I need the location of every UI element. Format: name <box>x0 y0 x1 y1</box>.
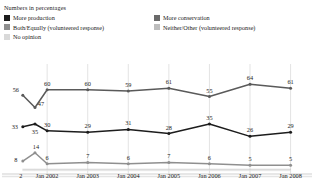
legend-row: Both/Equally (volunteered response) Neit… <box>4 24 310 31</box>
data-point <box>21 125 24 128</box>
chart-screenshot: Numbers in percentages More production M… <box>0 0 314 188</box>
data-value-label: 59 <box>125 81 131 88</box>
data-value-label: 33 <box>12 122 18 129</box>
data-value-label: 6 <box>127 153 130 160</box>
legend-swatch-no-opinion <box>4 34 10 40</box>
data-value-label: 30 <box>44 120 50 127</box>
data-value-label: 6 <box>208 153 211 160</box>
data-point <box>127 162 130 165</box>
data-point <box>46 162 49 165</box>
legend-item-more-conservation: More conservation <box>154 14 310 21</box>
data-point <box>33 151 36 154</box>
data-value-label: 28 <box>166 123 172 130</box>
data-value-label: 60 <box>44 79 50 86</box>
data-point <box>167 132 170 135</box>
data-value-label: 29 <box>287 122 293 129</box>
data-value-label: 61 <box>287 78 293 85</box>
data-point <box>249 135 252 138</box>
data-point <box>249 83 252 86</box>
data-point <box>86 161 89 164</box>
data-point <box>127 128 130 131</box>
legend-label-no-opinion: No opinion <box>13 33 41 40</box>
legend-swatch-more-conservation <box>154 15 160 21</box>
legend-item-both-equally: Both/Equally (volunteered response) <box>4 24 154 31</box>
x-tick-label: Jan 2005 <box>158 172 181 179</box>
legend-row: More production More conservation <box>4 14 310 21</box>
x-tick-label: Jan 2007 <box>239 172 262 179</box>
data-value-label: 5 <box>289 155 292 162</box>
data-point <box>167 87 170 90</box>
data-point <box>86 88 89 91</box>
data-value-label: 26 <box>247 126 253 133</box>
x-tick-label: Jan 2006 <box>198 172 221 179</box>
data-value-label: 5 <box>248 155 251 162</box>
data-value-label: 35 <box>206 114 212 121</box>
legend-label-neither-other: Neither/Other (volunteered response) <box>163 24 255 31</box>
x-tick-label: Jan 2008 <box>279 172 302 179</box>
data-point <box>167 161 170 164</box>
x-tick-label: Jan 2003 <box>76 172 99 179</box>
legend-item-no-opinion: No opinion <box>4 33 154 40</box>
x-axis-tick-labels: Jan 2002Jan 2003Jan 2004Jan 2005Jan 2006… <box>0 172 314 186</box>
legend-swatch-more-production <box>4 15 10 21</box>
data-point <box>249 164 252 167</box>
data-point <box>208 162 211 165</box>
data-point <box>21 160 24 163</box>
data-point <box>33 123 36 126</box>
data-point <box>289 131 292 134</box>
chart-legend: More production More conservation Both/E… <box>4 14 310 43</box>
data-value-label: 7 <box>86 152 89 159</box>
data-value-label: 60 <box>85 79 91 86</box>
legend-label-more-production: More production <box>13 14 55 21</box>
data-value-label: 7 <box>167 152 170 159</box>
data-point <box>33 106 36 109</box>
data-point <box>289 164 292 167</box>
data-value-label: 6 <box>46 153 49 160</box>
data-value-label: 31 <box>125 119 131 126</box>
data-value-label: 29 <box>85 122 91 129</box>
data-value-label: 61 <box>166 78 172 85</box>
legend-item-neither-other: Neither/Other (volunteered response) <box>154 24 310 31</box>
chart-subtitle: Numbers in percentages <box>4 4 66 11</box>
data-point <box>46 88 49 91</box>
data-value-label: 2 <box>19 172 22 179</box>
data-value-label: 14 <box>33 142 39 149</box>
data-point <box>46 129 49 132</box>
x-tick-label: Jan 2002 <box>36 172 59 179</box>
data-value-label: 8 <box>14 156 17 163</box>
legend-label-both-equally: Both/Equally (volunteered response) <box>13 24 104 31</box>
legend-swatch-both-equally <box>4 24 10 30</box>
data-point <box>127 90 130 93</box>
data-value-label: 35 <box>32 128 38 135</box>
data-value-label: 55 <box>206 86 212 93</box>
data-value-label: 56 <box>13 86 19 93</box>
data-point <box>208 95 211 98</box>
data-value-label: 47 <box>38 99 44 106</box>
data-value-label: 64 <box>247 74 253 81</box>
series-line <box>23 84 291 107</box>
legend-swatch-neither-other <box>154 24 160 30</box>
legend-row: No opinion <box>4 33 310 40</box>
data-point <box>86 131 89 134</box>
data-point <box>21 94 24 97</box>
data-point <box>289 87 292 90</box>
legend-item-more-production: More production <box>4 14 154 21</box>
legend-label-more-conservation: More conservation <box>163 14 210 21</box>
data-point <box>208 123 211 126</box>
x-tick-label: Jan 2004 <box>117 172 140 179</box>
